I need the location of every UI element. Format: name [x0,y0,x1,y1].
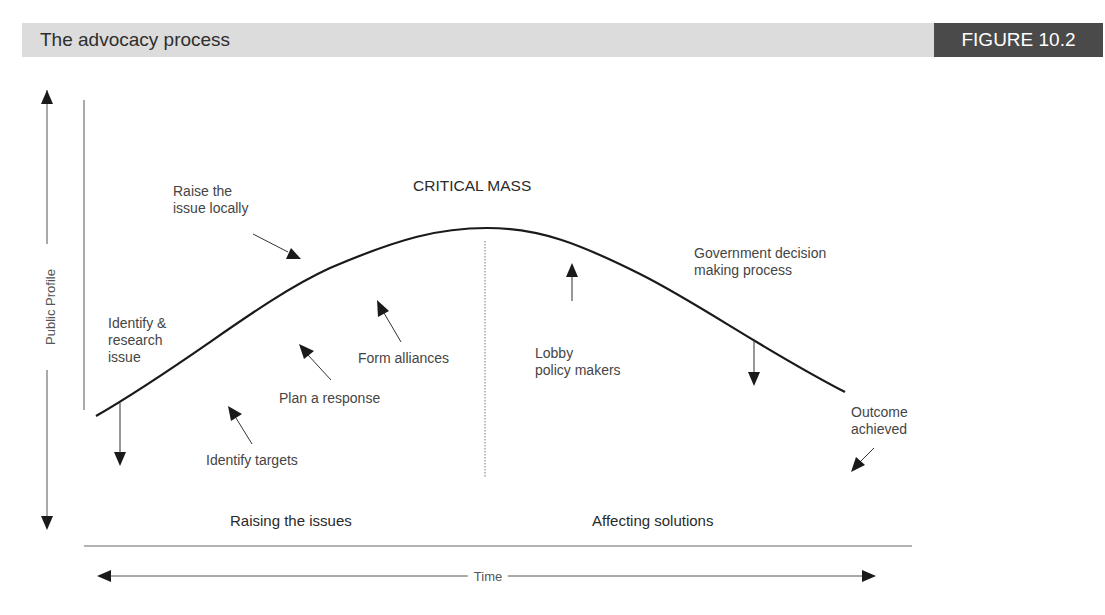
step-arrow-plan-response [299,344,331,380]
step-label-government-decision: Government decision making process [694,245,826,279]
arrow-up-left-icon [299,344,314,359]
phase-label-affecting: Affecting solutions [592,512,713,530]
arrow-down-right-icon [286,248,301,259]
y-axis-label: Public Profile [43,269,58,345]
arrow-down-icon [114,452,126,466]
arrow-up-icon [41,90,53,104]
advocacy-diagram [0,0,1105,615]
arrow-right-icon [862,570,876,582]
step-label-form-alliances: Form alliances [358,350,449,367]
arrow-down-icon [41,516,53,530]
step-label-raise-locally: Raise the issue locally [173,183,248,217]
step-label-identify-targets: Identify targets [206,452,298,469]
step-arrow-government-decision [748,340,760,386]
step-arrow-form-alliances [377,300,401,342]
step-label-plan-response: Plan a response [279,390,380,407]
step-label-lobby: Lobby policy makers [535,345,621,379]
x-axis-label: Time [468,569,508,584]
step-label-identify-research: Identify & research issue [108,315,166,366]
step-arrow-raise-locally [253,234,301,259]
step-arrow-identify-targets [228,406,252,444]
arrow-left-icon [97,570,111,582]
arrow-up-icon [566,263,578,277]
critical-mass-label: CRITICAL MASS [413,177,531,195]
arrow-down-icon [748,372,760,386]
phase-label-raising: Raising the issues [230,512,352,530]
arrow-up-left-icon [377,300,389,317]
step-label-outcome: Outcome achieved [851,404,908,438]
step-arrow-lobby [566,263,578,301]
arrow-up-left-icon [228,406,242,421]
step-arrow-identify-research [114,403,126,466]
step-arrow-outcome [851,448,874,472]
